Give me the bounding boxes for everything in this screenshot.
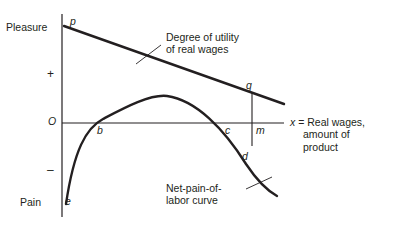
annotation-net-pain-of-labor-line-2: labor curve bbox=[166, 194, 221, 206]
origin-label: O bbox=[48, 115, 56, 127]
figure-canvas: Pleasure Pain + – O x = Real wages, amou… bbox=[0, 0, 395, 227]
point-label-q: q bbox=[246, 79, 252, 91]
point-label-p: p bbox=[70, 15, 76, 27]
point-label-m: m bbox=[256, 124, 265, 136]
x-axis-equals: = bbox=[298, 116, 304, 128]
annotation-degree-of-utility-line-1: Degree of utility bbox=[166, 31, 239, 43]
annotation-degree-of-utility: Degree of utility of real wages bbox=[166, 31, 239, 56]
annotation-net-pain-of-labor-line-1: Net-pain-of- bbox=[166, 182, 221, 194]
x-axis-label: x = Real wages, amount of product bbox=[290, 116, 365, 153]
point-label-b: b bbox=[97, 124, 103, 136]
x-axis-label-line-3: product bbox=[290, 141, 365, 153]
y-axis-bottom-label: Pain bbox=[20, 196, 41, 208]
annotation-net-pain-of-labor: Net-pain-of- labor curve bbox=[166, 182, 221, 207]
y-axis-top-label: Pleasure bbox=[6, 21, 47, 33]
y-axis-positive-tick: + bbox=[47, 67, 54, 81]
x-axis-label-line-1: x = Real wages, bbox=[290, 116, 365, 128]
point-label-c: c bbox=[225, 124, 230, 136]
annotation-degree-of-utility-line-2: of real wages bbox=[166, 43, 239, 55]
y-axis-negative-tick: – bbox=[47, 163, 54, 177]
point-label-e: e bbox=[65, 195, 71, 207]
x-axis-label-text: Real wages, bbox=[307, 116, 365, 128]
point-label-d: d bbox=[242, 150, 248, 162]
leader-line-utility-annotation bbox=[136, 45, 161, 64]
x-axis-label-line-2: amount of bbox=[290, 128, 365, 140]
leader-line-net-pain-annotation bbox=[246, 177, 272, 189]
x-axis-variable: x bbox=[290, 116, 295, 128]
